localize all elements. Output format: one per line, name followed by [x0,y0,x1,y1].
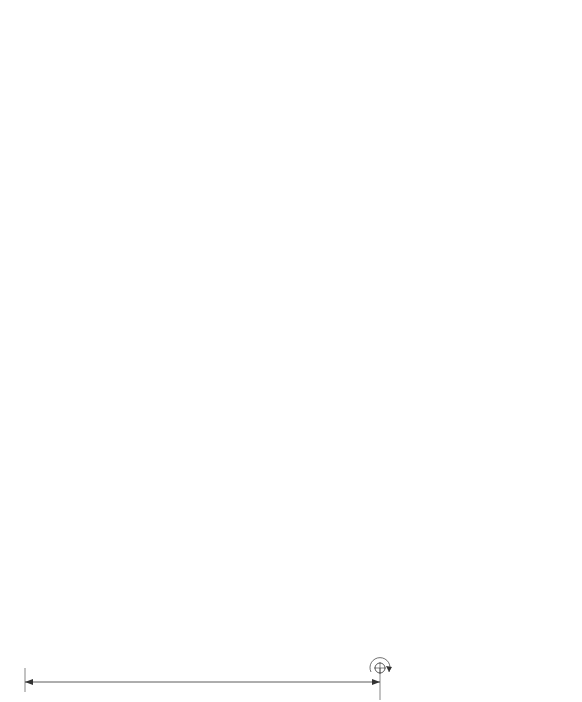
coordinate-grid-diagram [0,0,582,702]
rotation-center-icon [370,658,392,674]
dimension-line [25,668,380,700]
